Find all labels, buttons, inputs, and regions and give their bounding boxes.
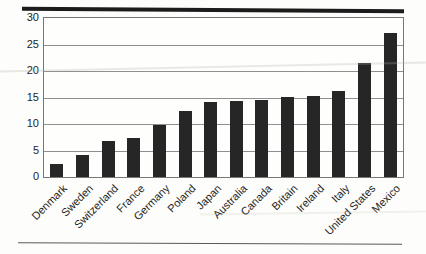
bar-ireland xyxy=(307,96,320,177)
top-rule xyxy=(22,7,404,13)
bar-mexico xyxy=(384,33,397,177)
x-tick-label-poland: Poland xyxy=(165,182,198,215)
bar-japan xyxy=(204,102,217,177)
plot-area xyxy=(43,17,404,178)
gridline-5 xyxy=(44,151,403,152)
scanned-figure-page: 051015202530 DenmarkSwedenSwitzerlandFra… xyxy=(0,0,426,254)
y-tick-label-25: 25 xyxy=(13,39,39,50)
bar-australia xyxy=(230,101,243,177)
y-tick-label-20: 20 xyxy=(13,65,39,76)
gridline-20 xyxy=(44,71,403,72)
y-tick-label-0: 0 xyxy=(13,171,39,182)
bottom-rule xyxy=(18,242,402,244)
bar-germany xyxy=(153,125,166,177)
bar-italy xyxy=(332,91,345,177)
gridline-25 xyxy=(44,45,403,46)
scan-artifact-streak xyxy=(200,210,426,215)
bar-sweden xyxy=(76,155,89,177)
gridline-10 xyxy=(44,124,403,125)
x-tick-label-ireland: Ireland xyxy=(293,182,325,214)
y-tick-label-15: 15 xyxy=(13,92,39,103)
gridline-15 xyxy=(44,98,403,99)
bar-united-states xyxy=(358,63,371,177)
y-tick-label-10: 10 xyxy=(13,118,39,129)
bar-canada xyxy=(255,100,268,177)
bar-poland xyxy=(179,111,192,177)
bar-switzerland xyxy=(102,141,115,177)
bar-denmark xyxy=(50,164,63,177)
x-tick-label-denmark: Denmark xyxy=(29,182,69,222)
y-tick-label-5: 5 xyxy=(13,145,39,156)
bar-britain xyxy=(281,97,294,177)
bar-france xyxy=(127,138,140,177)
y-tick-label-30: 30 xyxy=(13,12,39,23)
